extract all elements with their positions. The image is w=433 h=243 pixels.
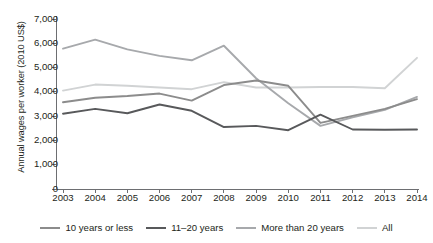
legend-item-label: 11–20 years (171, 222, 223, 234)
legend-item[interactable]: 11–20 years (146, 222, 223, 234)
chart-legend: 10 years or less11–20 yearsMore than 20 … (0, 218, 433, 238)
legend-swatch-icon (357, 227, 377, 229)
x-tick-label: 2011 (310, 192, 331, 204)
x-tick-label: 2003 (52, 192, 73, 204)
x-tick-label-group: 2003200420052006200720082009201020112012… (0, 192, 433, 208)
x-tick-label: 2009 (245, 192, 266, 204)
x-tick-label: 2008 (213, 192, 234, 204)
legend-item[interactable]: 10 years or less (40, 222, 133, 234)
y-tick-label: 2,000 (18, 135, 58, 145)
legend-item-label: 10 years or less (65, 222, 133, 234)
y-tick-label: 4,000 (18, 86, 58, 96)
series-line (63, 104, 417, 130)
series-lines (63, 40, 417, 131)
legend-swatch-icon (236, 227, 256, 229)
legend-swatch-icon (146, 227, 166, 229)
x-tick-label: 2004 (85, 192, 106, 204)
line-chart-figure: Annual wages per worker (2010 US$) 01,00… (0, 0, 433, 243)
x-tick-label: 2010 (278, 192, 299, 204)
legend-item[interactable]: More than 20 years (236, 222, 344, 234)
axis-lines (56, 16, 419, 189)
legend-item-label: All (382, 222, 393, 234)
x-tick-label: 2006 (149, 192, 170, 204)
legend-item-label: More than 20 years (261, 222, 344, 234)
legend-item[interactable]: All (357, 222, 393, 234)
x-tick-label: 2007 (181, 192, 202, 204)
y-tick-label-group: 01,0002,0003,0004,0005,0006,0007,000 (16, 0, 58, 200)
y-tick-label: 3,000 (18, 111, 58, 121)
y-tick-label: 1,000 (18, 159, 58, 169)
x-tick-label: 2014 (406, 192, 427, 204)
x-tick-label: 2005 (117, 192, 138, 204)
legend-swatch-icon (40, 227, 60, 229)
y-tick-label: 5,000 (18, 62, 58, 72)
y-tick-label: 7,000 (18, 14, 58, 24)
y-tick-label: 6,000 (18, 38, 58, 48)
x-tick-label: 2012 (342, 192, 363, 204)
x-tick-label: 2013 (374, 192, 395, 204)
